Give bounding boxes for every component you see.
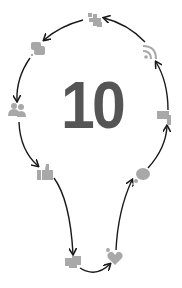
handshake-icon: [65, 256, 81, 268]
arrow-chat-to-people: [17, 58, 30, 101]
arrow-puzzle-to-chat: [44, 20, 83, 40]
arrow-speech-to-flag: [148, 126, 167, 168]
flag-icon: [157, 111, 171, 125]
arrow-rss-to-puzzle: [104, 18, 145, 42]
puzzle-sparkle-icon: [88, 13, 102, 27]
center-number: 10: [53, 70, 130, 140]
cycle-diagram: [0, 0, 182, 288]
people-icon: [8, 103, 26, 117]
rss-icon: [143, 46, 156, 59]
arrow-heart-to-speech: [116, 180, 132, 250]
speech-bubble-icon: [132, 168, 150, 185]
thumbs-up-icon: [37, 164, 53, 180]
arrow-flag-to-rss: [156, 62, 168, 110]
arrow-thumbs-to-handshake: [54, 178, 73, 254]
heart-icon: [106, 248, 123, 265]
chat-bubbles-icon: [31, 42, 45, 56]
arrow-people-to-thumbs: [19, 122, 38, 166]
arrow-handshake-to-heart: [80, 264, 110, 272]
